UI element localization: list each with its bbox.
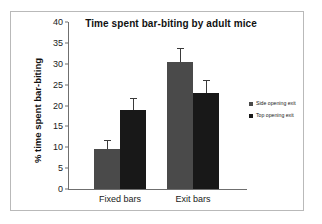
x-axis-category-label: Fixed bars <box>80 194 160 204</box>
y-axis-tick: 0 <box>47 185 68 194</box>
y-axis-tick-mark <box>65 147 68 148</box>
y-axis-tick-label: 15 <box>47 122 63 131</box>
y-axis-tick: 10 <box>47 143 68 152</box>
y-axis-tick: 40 <box>47 18 68 27</box>
error-bar <box>180 49 181 62</box>
x-axis-category-label: Exit bars <box>153 194 233 204</box>
error-bar <box>133 99 134 109</box>
bar <box>120 110 146 189</box>
square-marker-black <box>249 114 253 118</box>
legend-label: Side opening exit <box>256 101 296 106</box>
y-axis-tick-label: 0 <box>47 185 63 194</box>
y-axis-tick-mark <box>65 42 68 43</box>
error-bar-cap <box>130 98 137 99</box>
y-axis-tick: 30 <box>47 59 68 68</box>
y-axis-tick-mark <box>65 168 68 169</box>
y-axis-tick: 15 <box>47 122 68 131</box>
y-axis-tick: 20 <box>47 101 68 110</box>
y-axis-title: % time spent bar-biting <box>32 36 43 186</box>
y-axis-tick: 35 <box>47 38 68 47</box>
y-axis-tick-mark <box>65 63 68 64</box>
y-axis-tick-label: 40 <box>47 18 63 27</box>
y-axis-tick-label: 25 <box>47 80 63 89</box>
error-bar-cap <box>177 48 184 49</box>
y-axis-tick-mark <box>65 189 68 190</box>
error-bar-cap <box>104 140 111 141</box>
chart-legend: Side opening exitTop opening exit <box>249 100 311 124</box>
y-axis-tick-mark <box>65 84 68 85</box>
legend-item: Top opening exit <box>249 112 311 120</box>
y-axis-tick-mark <box>65 105 68 106</box>
plot-area: 0510152025303540 <box>68 22 233 189</box>
figure-page: Time spent bar-biting by adult mice % ti… <box>0 0 322 224</box>
y-axis-tick-mark <box>65 126 68 127</box>
figure-frame-border: Time spent bar-biting by adult mice % ti… <box>10 11 304 211</box>
bar <box>94 149 120 189</box>
error-bar <box>206 81 207 93</box>
legend-item: Side opening exit <box>249 100 311 108</box>
bar-chart: Time spent bar-biting by adult mice % ti… <box>11 12 305 212</box>
y-axis-tick-label: 30 <box>47 59 63 68</box>
y-axis-tick-label: 5 <box>47 164 63 173</box>
y-axis-tick-label: 20 <box>47 101 63 110</box>
y-axis-tick-label: 10 <box>47 143 63 152</box>
error-bar-cap <box>203 80 210 81</box>
y-axis-tick-mark <box>65 22 68 23</box>
bar <box>193 93 219 189</box>
error-bar <box>107 141 108 149</box>
legend-label: Top opening exit <box>256 113 294 118</box>
y-axis-tick: 5 <box>47 164 68 173</box>
x-axis-line <box>68 189 247 190</box>
bar <box>167 62 193 189</box>
square-marker-gray <box>249 102 253 106</box>
y-axis-tick: 25 <box>47 80 68 89</box>
y-axis-tick-label: 35 <box>47 38 63 47</box>
